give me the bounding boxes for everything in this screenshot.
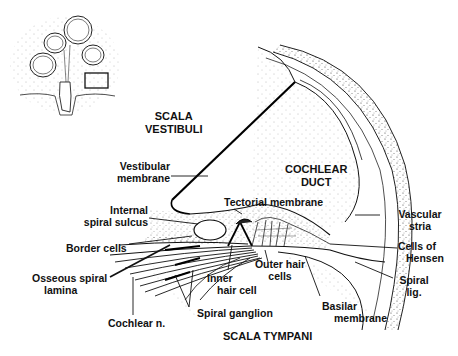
label-line: Spiral: [394, 274, 434, 286]
cochlear-duct-illustration: [0, 0, 458, 356]
label-vestibular-membrane: Vestibular membrane: [100, 160, 170, 184]
label-cochlear-duct: COCHLEAR DUCT: [285, 163, 347, 189]
label-line: Osseous spiral: [32, 272, 107, 284]
label-line: Internal: [60, 204, 148, 216]
label-line: cells: [254, 270, 306, 282]
label-line: membrane: [100, 172, 170, 184]
label-line: spiral sulcus: [60, 216, 148, 228]
label-scala-vestibuli: SCALA VESTIBULI: [145, 110, 202, 136]
label-spiral-lig: Spiral lig.: [394, 274, 434, 298]
inset-cochlea: [10, 16, 120, 115]
label-line: stria: [392, 220, 448, 232]
label-spiral-ganglion: Spiral ganglion: [197, 307, 273, 319]
label-tectorial-membrane: Tectorial membrane: [224, 196, 323, 208]
label-cells-of-hensen: Cells of Hensen: [398, 240, 444, 264]
label-outer-hair-cells: Outer hair cells: [254, 258, 306, 282]
label-line: lig.: [394, 286, 434, 298]
label-line: lamina: [32, 284, 107, 296]
label-osseous-spiral-lamina: Osseous spiral lamina: [32, 272, 107, 296]
label-border-cells: Border cells: [66, 242, 127, 254]
label-line: Basilar: [322, 300, 387, 312]
label-line: Cells of: [398, 240, 444, 252]
label-line: SCALA: [145, 110, 202, 123]
label-vascular-stria: Vascular stria: [392, 208, 448, 232]
label-inner-hair-cell: Inner hair cell: [207, 272, 257, 296]
label-cochlear-n: Cochlear n.: [108, 317, 165, 329]
label-line: hair cell: [207, 284, 257, 296]
label-line: Outer hair: [254, 258, 306, 270]
label-line: Hensen: [398, 252, 444, 264]
label-basilar-membrane: Basilar membrane: [322, 300, 387, 324]
label-internal-spiral-sulcus: Internal spiral sulcus: [60, 204, 148, 228]
label-scala-tympani: SCALA TYMPANI: [223, 330, 312, 343]
label-line: Inner: [207, 272, 257, 284]
label-line: COCHLEAR: [285, 163, 347, 176]
label-line: VESTIBULI: [145, 123, 202, 136]
label-line: membrane: [322, 312, 387, 324]
label-line: DUCT: [285, 176, 347, 189]
label-line: Vestibular: [100, 160, 170, 172]
label-line: Vascular: [392, 208, 448, 220]
